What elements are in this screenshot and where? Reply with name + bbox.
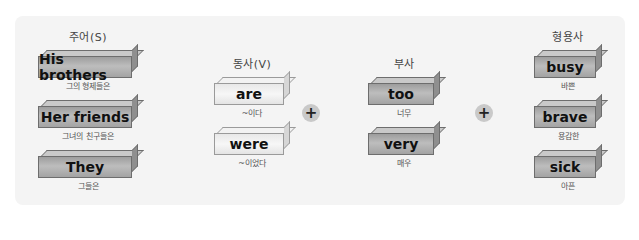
word-label: Her friends (38, 106, 132, 128)
subject-item: Her friends 그녀의 친구들은 (38, 100, 138, 141)
adverb-item: very 매우 (368, 127, 440, 168)
word-label: were (214, 133, 284, 155)
word-label: too (368, 83, 434, 105)
gloss-label: 아픈 (561, 180, 575, 191)
subject-item: They 그들은 (38, 150, 138, 191)
gloss-label: 용감한 (558, 130, 579, 141)
word-label: busy (534, 56, 596, 78)
gloss-label: ~이다 (242, 107, 263, 118)
word-label: sick (534, 156, 596, 178)
adjective-item: busy 바쁜 (534, 50, 602, 91)
adverb-item: too 너무 (368, 77, 440, 118)
adjective-item: sick 아픈 (534, 150, 602, 191)
adjective-column: 형용사 busy 바쁜 brave 용감한 sick 아픈 (532, 28, 604, 200)
word-label: are (214, 83, 284, 105)
word-block: busy (534, 56, 596, 78)
word-block: were (214, 133, 284, 155)
word-block: brave (534, 106, 596, 128)
gloss-label: ~이었다 (238, 157, 266, 168)
verb-item: were ~이었다 (214, 127, 290, 168)
word-block: too (368, 83, 434, 105)
plus-icon: + (475, 104, 493, 122)
gloss-label: 그들은 (78, 180, 99, 191)
word-block: very (368, 133, 434, 155)
word-label: They (38, 156, 132, 178)
adverb-column: 부사 too 너무 very 매우 (366, 55, 442, 177)
verb-column: 동사(V) are ~이다 were ~이었다 (212, 55, 292, 177)
word-label: brave (534, 106, 596, 128)
gloss-label: 그녀의 친구들은 (62, 130, 114, 141)
adverb-heading: 부사 (394, 55, 415, 71)
adjective-heading: 형용사 (552, 28, 584, 44)
adjective-item: brave 용감한 (534, 100, 602, 141)
subject-item: His brothers 그의 형제들은 (38, 50, 138, 91)
word-label: His brothers (38, 56, 132, 78)
subject-heading: 주어(S) (69, 28, 107, 44)
word-block: are (214, 83, 284, 105)
word-block: sick (534, 156, 596, 178)
plus-icon: + (302, 104, 320, 122)
gloss-label: 바쁜 (561, 80, 575, 91)
gloss-label: 매우 (397, 157, 411, 168)
verb-heading: 동사(V) (233, 55, 272, 71)
verb-item: are ~이다 (214, 77, 290, 118)
subject-column: 주어(S) His brothers 그의 형제들은 Her friends 그… (38, 28, 138, 200)
word-block: His brothers (38, 56, 132, 78)
gloss-label: 너무 (397, 107, 411, 118)
word-block: They (38, 156, 132, 178)
word-label: very (368, 133, 434, 155)
word-block: Her friends (38, 106, 132, 128)
